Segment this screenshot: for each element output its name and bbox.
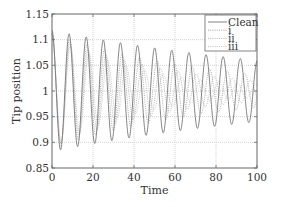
y-axis-label: Tip position [10, 58, 23, 124]
y-tick-label: 0.85 [26, 162, 49, 174]
x-axis-label: Time [141, 184, 169, 197]
legend: Cleaniiiiii [205, 15, 259, 52]
x-tick-label: 20 [86, 171, 99, 183]
x-tick-label: 80 [209, 171, 222, 183]
legend-label: iii [228, 40, 239, 52]
y-tick-label: 0.95 [26, 110, 49, 122]
x-tick-label: 40 [127, 171, 140, 183]
y-tick-label: 1.15 [26, 8, 49, 20]
y-tick-label: 1 [42, 85, 49, 97]
x-tick-label: 0 [49, 171, 56, 183]
y-tick-label: 1.05 [26, 59, 49, 71]
line-chart: 020406080100 0.850.90.9511.051.11.15 Tim… [0, 0, 281, 207]
x-tick-label: 60 [168, 171, 181, 183]
y-tick-label: 1.1 [32, 33, 49, 45]
x-tick-label: 100 [247, 171, 267, 183]
legend-label: Clean [228, 16, 259, 28]
y-tick-label: 0.9 [32, 136, 49, 148]
